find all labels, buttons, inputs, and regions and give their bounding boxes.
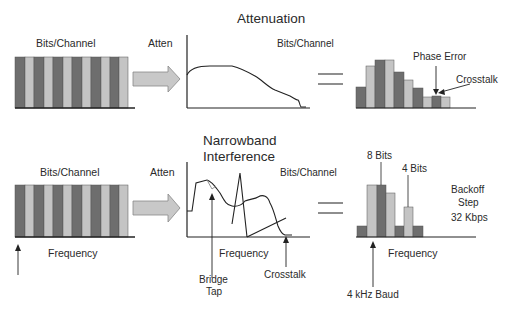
bottom-interference-curve [187, 162, 310, 278]
top-input-bars [15, 57, 135, 108]
top-crosstalk-label: Crosstalk [456, 75, 498, 85]
eight-bits-label: 8 Bits [367, 151, 392, 161]
top-arrow [133, 66, 180, 92]
phase-error-label: Phase Error [413, 52, 466, 62]
bottom-title-line1: Narrowband [203, 133, 277, 149]
bottom-input-bars [15, 185, 135, 275]
baud-label: 4 kHz Baud [347, 290, 399, 300]
bottom-input-label: Bits/Channel [40, 167, 100, 178]
bottom-title-line2: Interference [203, 149, 275, 165]
bottom-arrow [133, 194, 180, 222]
bottom-output-axis-label: Frequency [388, 248, 438, 259]
rate-label: 32 Kbps [451, 213, 488, 223]
bridge-tap-label-line2: Tap [206, 287, 222, 297]
top-input-label: Bits/Channel [36, 38, 96, 49]
bottom-output-histogram [356, 162, 476, 287]
bridge-tap-label-line1: Bridge [199, 275, 228, 285]
bottom-arrow-label: Atten [150, 167, 175, 178]
backoff-label-line2: Step [458, 198, 479, 208]
backoff-label-line1: Backoff [451, 185, 484, 195]
curve-axis-label: Frequency [219, 248, 269, 259]
bottom-crosstalk-label: Crosstalk [264, 270, 306, 280]
top-equals-sign [318, 74, 343, 84]
bottom-equals-sign [318, 203, 343, 213]
top-title: Attenuation [237, 11, 305, 27]
bottom-output-label: Bits/Channel [280, 168, 337, 178]
bottom-input-axis-label: Frequency [48, 248, 98, 259]
four-bits-label: 4 Bits [402, 164, 427, 174]
top-arrow-label: Atten [148, 38, 173, 49]
top-output-label: Bits/Channel [277, 39, 334, 49]
